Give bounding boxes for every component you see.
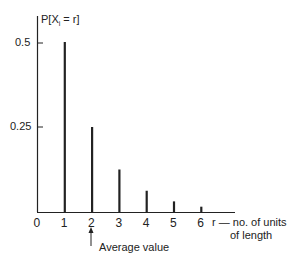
bars: [65, 42, 202, 212]
x-axis-label-line2: of length: [230, 229, 272, 241]
y-axis-label: P[Xi = r]: [41, 13, 80, 27]
x-tick-label: 2: [88, 216, 95, 230]
x-axis-label-line1: r — no. of units: [212, 216, 287, 228]
y-tick-label: 0.5: [15, 36, 30, 48]
x-tick-label: 4: [143, 216, 150, 230]
y-tick-label: 0.25: [10, 120, 31, 132]
x-tick-label: 3: [115, 216, 122, 230]
x-tick-label: 1: [61, 216, 68, 230]
x-tick-label: 0: [34, 216, 41, 230]
x-tick-label: 6: [197, 216, 204, 230]
annotation-label: Average value: [99, 241, 169, 253]
x-tick-label: 5: [170, 216, 177, 230]
